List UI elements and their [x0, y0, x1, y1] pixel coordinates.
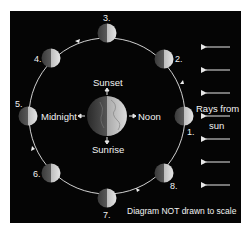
sun-rays-label-line2: sun — [209, 121, 224, 131]
moon-label-6: 6. — [33, 170, 41, 179]
moon-icon-1 — [175, 107, 194, 126]
moon-label-8: 8. — [170, 182, 178, 191]
orbit-arrow-icon — [31, 146, 35, 151]
sunrise-label: Sunrise — [92, 145, 124, 155]
noon-label: Noon — [138, 112, 161, 122]
orbit-arrow-icon — [136, 188, 140, 192]
moon-icon-2 — [155, 50, 174, 69]
moon-icon-6 — [42, 164, 61, 183]
moon-icon-5 — [19, 107, 38, 126]
moon-label-7: 7. — [103, 211, 111, 220]
moon-label-1: 1. — [187, 128, 195, 137]
moon-icon-7 — [98, 189, 117, 208]
midnight-label: Midnight — [41, 112, 77, 122]
moon-label-4: 4. — [34, 55, 42, 64]
orbit-arrow-icon — [75, 39, 80, 43]
moon-label-2: 2. — [175, 55, 183, 64]
sunset-label: Sunset — [93, 78, 123, 88]
moon-label-3: 3. — [103, 14, 111, 23]
moon-icon-4 — [42, 49, 61, 68]
sun-rays — [206, 47, 230, 185]
moon-icon-8 — [155, 164, 174, 183]
earth — [87, 96, 127, 136]
scale-disclaimer: Diagram NOT drawn to scale — [127, 207, 236, 216]
moon-label-5: 5. — [15, 100, 23, 109]
orbit-arrow-icon — [180, 80, 184, 84]
moon-icon-3 — [98, 24, 117, 43]
earth-icon — [87, 96, 127, 136]
orbit-diagram — [0, 0, 247, 233]
sun-rays-label-line1: Rays from — [196, 104, 239, 114]
